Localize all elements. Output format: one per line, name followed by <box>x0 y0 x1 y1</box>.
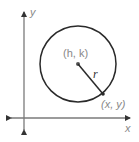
point-label: (x, y) <box>101 98 126 110</box>
center-label: (h, k) <box>63 47 88 59</box>
x-axis-label: x <box>124 122 131 134</box>
y-axis-label: y <box>29 6 37 18</box>
circle-diagram: y x (h, k) r (x, y) <box>0 0 139 142</box>
radius-label: r <box>93 67 98 81</box>
radius-segment <box>78 64 103 94</box>
point-on-circle <box>101 92 105 96</box>
